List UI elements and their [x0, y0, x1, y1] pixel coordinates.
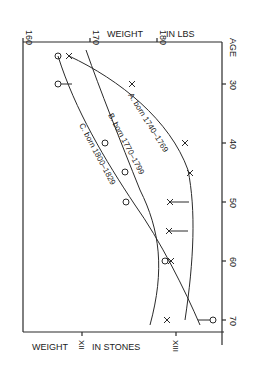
curve-b-label: B. born 1770–1799	[106, 112, 146, 177]
top-axis-weight-label: WEIGHT	[107, 29, 143, 39]
stone-xiii-label: XIII	[171, 340, 180, 352]
curve-b	[86, 50, 159, 325]
bottom-axis-weight-label: WEIGHT	[32, 342, 68, 352]
age-axis-label: AGE	[228, 38, 238, 57]
tick-170-label: 170	[91, 30, 101, 45]
weight-age-chart: 160 170 180 WEIGHT IN LBS AGE 30 40 50 6…	[0, 0, 266, 374]
stone-xii-label: XII	[77, 340, 86, 350]
tick-160-label: 160	[24, 30, 34, 45]
top-axis-unit-label: IN LBS	[166, 29, 195, 39]
bottom-axis-unit-label: IN STONES	[92, 342, 140, 352]
age-30-label: 30	[228, 80, 238, 90]
curve-a-label: A. born 1740–1769	[126, 91, 170, 154]
age-40-label: 40	[228, 139, 238, 149]
age-50-label: 50	[228, 198, 238, 208]
age-70-label: 70	[228, 316, 238, 326]
curve-c-label: C. born 1800–1829	[77, 122, 117, 187]
age-60-label: 60	[228, 257, 238, 267]
